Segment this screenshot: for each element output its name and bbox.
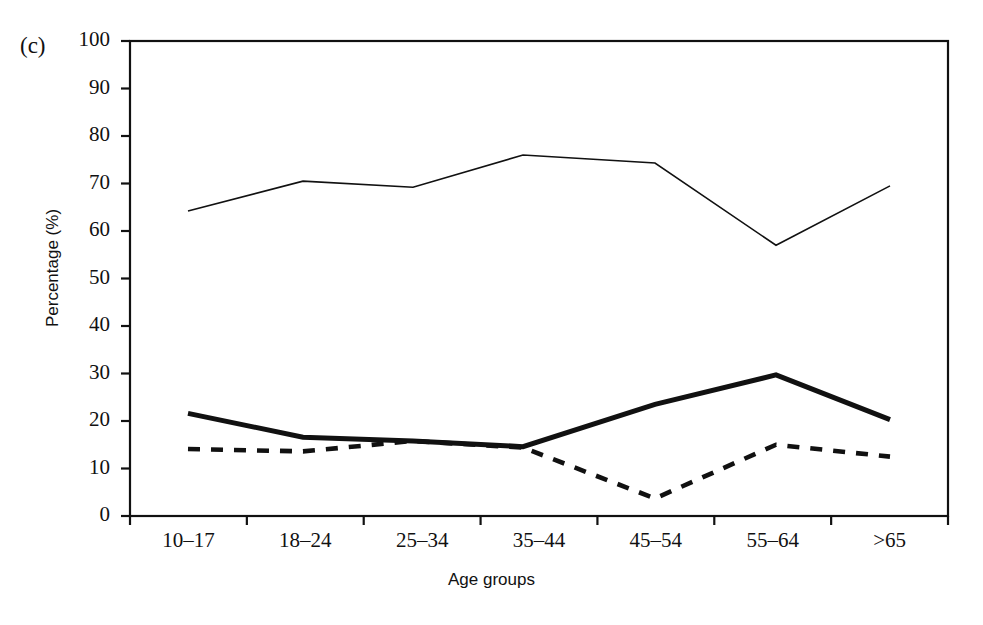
axis-frame bbox=[130, 41, 948, 516]
chart-figure: (c) Percentage (%) Age groups 0102030405… bbox=[0, 0, 983, 625]
y-axis-tick-marks bbox=[121, 41, 130, 516]
series-thin-solid-line bbox=[188, 155, 890, 245]
plot-canvas bbox=[0, 0, 983, 625]
series-dashed-line bbox=[188, 441, 890, 498]
series-thick-solid-line bbox=[188, 375, 890, 447]
axis-frame-rect bbox=[130, 41, 948, 516]
data-series-group bbox=[188, 155, 890, 498]
x-axis-tick-marks bbox=[130, 516, 948, 525]
